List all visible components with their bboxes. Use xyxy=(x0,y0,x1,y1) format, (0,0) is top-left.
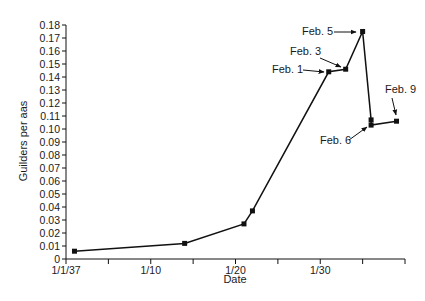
annotation-label: Feb. 9 xyxy=(385,83,416,95)
data-point-marker xyxy=(369,117,374,122)
x-tick-label: 1/30 xyxy=(310,264,331,276)
data-point-marker xyxy=(250,208,255,213)
y-tick-label: 0.17 xyxy=(40,32,61,44)
y-tick-label: 0.15 xyxy=(40,58,61,70)
y-tick-label: 0.07 xyxy=(40,162,61,174)
data-point-marker xyxy=(182,241,187,246)
annotation-label: Feb. 6 xyxy=(320,134,351,146)
annotation-arrow-icon xyxy=(349,127,367,140)
x-tick-label: 1/10 xyxy=(141,264,162,276)
data-point-marker xyxy=(369,123,374,128)
y-tick-label: 0.06 xyxy=(40,175,61,187)
data-point-marker xyxy=(394,119,399,124)
annotation-label: Feb. 3 xyxy=(290,45,321,57)
y-tick-label: 0.14 xyxy=(40,71,61,83)
data-point-marker xyxy=(343,67,348,72)
y-tick-label: 0.01 xyxy=(40,240,61,252)
y-tick-label: 0.03 xyxy=(40,214,61,226)
y-tick-label: 0.02 xyxy=(40,227,61,239)
annotation-label: Feb. 5 xyxy=(302,25,333,37)
y-tick-label: 0.13 xyxy=(40,84,61,96)
data-point-marker xyxy=(72,249,77,254)
y-tick-label: 0.05 xyxy=(40,188,61,200)
y-tick-label: 0.16 xyxy=(40,45,61,57)
y-tick-label: 0.04 xyxy=(40,201,61,213)
data-point-marker xyxy=(360,29,365,34)
y-tick-label: 0.18 xyxy=(40,19,61,31)
y-tick-label: 0.11 xyxy=(40,110,60,122)
y-axis-label: Guilders per aas xyxy=(17,100,29,181)
y-tick-label: 0.10 xyxy=(40,123,61,135)
y-tick-label: 0.12 xyxy=(40,97,61,109)
tulip-price-chart: 00.010.020.030.040.050.060.070.080.090.1… xyxy=(0,0,425,301)
x-tick-label: 1/1/37 xyxy=(51,264,80,276)
annotation-label: Feb. 1 xyxy=(272,63,303,75)
annotation-arrow-icon xyxy=(320,58,341,67)
annotation-arrow-icon xyxy=(392,98,396,115)
data-point-marker xyxy=(326,69,331,74)
y-tick-label: 0.08 xyxy=(40,149,61,161)
y-axis: 00.010.020.030.040.050.060.070.080.090.1… xyxy=(40,19,66,265)
chart-canvas: 00.010.020.030.040.050.060.070.080.090.1… xyxy=(0,0,425,301)
annotations: Feb. 1Feb. 3Feb. 5Feb. 6Feb. 9 xyxy=(272,25,416,146)
data-point-marker xyxy=(241,221,246,226)
annotation-arrow-icon xyxy=(303,70,324,72)
x-axis-label: Date xyxy=(223,273,246,285)
y-tick-label: 0.09 xyxy=(40,136,61,148)
